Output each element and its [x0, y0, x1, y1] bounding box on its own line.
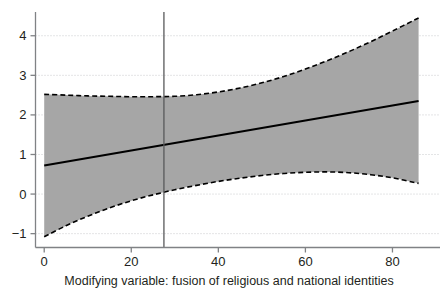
x-tick-label: 80 — [385, 254, 399, 269]
x-axis-title: Modifying variable: fusion of religious … — [64, 274, 393, 288]
y-tick-label: 3 — [19, 68, 26, 83]
x-tick-label: 0 — [41, 254, 48, 269]
marginal-effects-chart: −101234 020406080 Modifying variable: fu… — [0, 0, 442, 293]
confidence-band-area — [44, 18, 418, 237]
y-tick-label: −1 — [12, 226, 27, 241]
y-tick-label: 4 — [19, 28, 26, 43]
x-tick-label: 40 — [211, 254, 225, 269]
x-tick-label: 60 — [298, 254, 312, 269]
x-tick-label: 20 — [124, 254, 138, 269]
y-tick-label: 2 — [19, 107, 26, 122]
x-axis-ticks: 020406080 — [41, 248, 400, 269]
chart-container: −101234 020406080 Modifying variable: fu… — [0, 0, 442, 293]
y-axis-ticks: −101234 — [12, 28, 36, 241]
y-tick-label: 0 — [19, 187, 26, 202]
y-tick-label: 1 — [19, 147, 26, 162]
